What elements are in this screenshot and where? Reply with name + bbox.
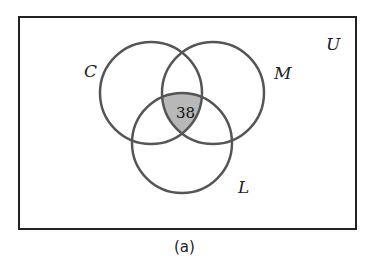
figure-caption: (a) — [174, 238, 195, 256]
region-value-38: 38 — [176, 104, 195, 122]
set-l-label: L — [237, 177, 249, 197]
venn-diagram: C M L U 38 (a) — [0, 0, 374, 277]
universe-label: U — [326, 34, 341, 54]
set-c-label: C — [84, 61, 97, 81]
set-m-label: M — [273, 63, 292, 83]
